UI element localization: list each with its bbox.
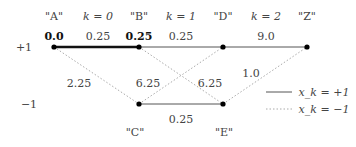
weight-c-d: 6.25 bbox=[136, 78, 161, 89]
weight-e-z: 1.0 bbox=[242, 68, 260, 79]
node-a bbox=[51, 44, 56, 49]
stage-label-1: k = 1 bbox=[166, 11, 196, 22]
node-d bbox=[220, 44, 225, 49]
node-b bbox=[136, 44, 141, 49]
node-metric-b: 0.25 bbox=[126, 31, 153, 42]
node-label-d: "D" bbox=[214, 11, 233, 22]
edge-a-c bbox=[54, 47, 139, 104]
legend-dotted-label: x_k = −1 bbox=[299, 104, 350, 115]
node-label-c: "C" bbox=[126, 127, 145, 138]
node-z bbox=[304, 44, 309, 49]
weight-c-e: 0.25 bbox=[169, 114, 194, 125]
node-label-e: "E" bbox=[215, 127, 233, 138]
stage-label-2: k = 2 bbox=[251, 11, 281, 22]
node-metric-a: 0.0 bbox=[44, 31, 63, 42]
node-label-b: "B" bbox=[130, 11, 148, 22]
weight-a-b: 0.25 bbox=[86, 31, 111, 42]
node-c bbox=[136, 101, 141, 106]
state-label-bottom: −1 bbox=[21, 99, 37, 110]
node-label-z: "Z" bbox=[298, 11, 316, 22]
edge-e-z bbox=[223, 47, 307, 104]
legend-solid-label: x_k = +1 bbox=[299, 87, 350, 98]
node-e bbox=[220, 101, 225, 106]
weight-b-e: 6.25 bbox=[198, 78, 223, 89]
weight-a-c: 2.25 bbox=[67, 78, 92, 89]
weight-b-d: 0.25 bbox=[169, 31, 194, 42]
weight-d-z: 9.0 bbox=[257, 31, 275, 42]
node-label-a: "A" bbox=[45, 11, 63, 22]
stage-label-0: k = 0 bbox=[83, 11, 113, 22]
state-label-top: +1 bbox=[16, 42, 32, 53]
